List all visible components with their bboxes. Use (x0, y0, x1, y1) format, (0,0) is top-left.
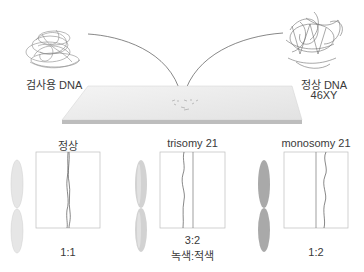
normal-dna-tangle-icon (286, 12, 342, 68)
normal-dna-arrow (184, 33, 283, 95)
panel-title-trisomy: trisomy 21 (150, 137, 235, 149)
test-dna-tangle-icon (26, 30, 80, 68)
panel-monosomy-21 (258, 152, 348, 252)
panel-title-monosomy: monosomy 21 (276, 137, 356, 149)
ratio-note-trisomy: 녹색:적색 (150, 247, 235, 263)
ratio-trisomy: 3:2 (150, 234, 235, 246)
normal-dna-karyotype: 46XY (292, 89, 356, 101)
panel-normal (11, 152, 100, 253)
diagram-canvas (0, 0, 364, 272)
chromosome-trisomy-icon (135, 160, 147, 252)
ratio-normal: 1:1 (36, 246, 100, 258)
ratio-monosomy: 1:2 (284, 246, 348, 258)
chromosome-normal-icon (11, 160, 23, 253)
panel-title-normal: 정상 (36, 137, 100, 153)
chromosome-monosomy-icon (258, 160, 270, 252)
test-dna-label: 검사용 DNA (26, 76, 82, 92)
microarray-slide (62, 86, 302, 124)
